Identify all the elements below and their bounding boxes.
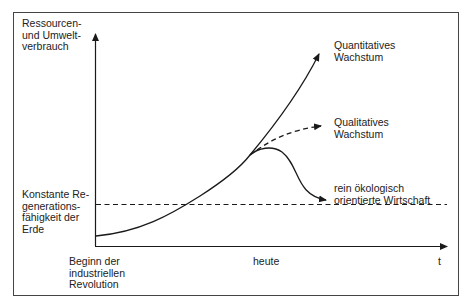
x-axis-label: t bbox=[438, 256, 441, 268]
x-tick-label-start: Beginn der industriellen Revolution bbox=[69, 256, 125, 291]
threshold-label: Konstante Re- generations- fähigkeit der… bbox=[22, 189, 89, 235]
y-axis-label: Ressourcen- und Umwelt- verbrauch bbox=[22, 18, 82, 53]
quantitative-growth-curve bbox=[96, 54, 319, 236]
qualitative-growth-label: Qualitatives Wachstum bbox=[334, 117, 389, 140]
x-tick-label-today: heute bbox=[253, 256, 279, 268]
qualitative-growth-curve bbox=[250, 126, 321, 155]
quantitative-growth-label: Quantitatives Wachstum bbox=[334, 40, 395, 63]
ecological-economy-label: rein ökologisch orientierte Wirtschaft bbox=[334, 183, 430, 206]
ecological-economy-curve bbox=[250, 148, 326, 200]
